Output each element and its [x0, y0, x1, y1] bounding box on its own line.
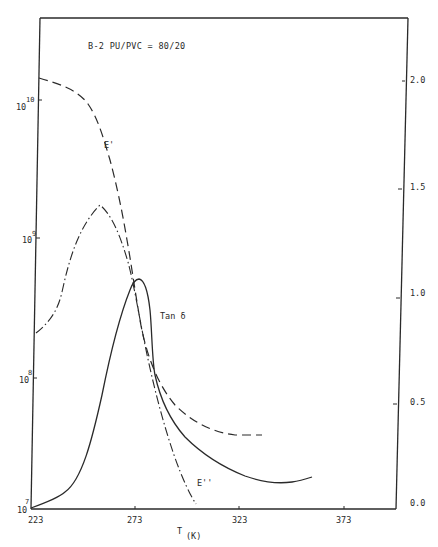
x-tick-223: 223 — [28, 515, 43, 525]
y-left-tick-1e7-base: 10 — [17, 505, 27, 515]
x-axis-tick-labels: 223 273 323 373 — [28, 515, 351, 525]
plot-frame — [31, 18, 408, 509]
dma-chart: 223 273 323 373 T (K) 10 10 10 9 10 8 10… — [0, 0, 438, 547]
y-right-tick-2.0: 2.0 — [410, 75, 425, 85]
y-left-tick-1e10-exp: 10 — [26, 96, 34, 104]
y-right-tick-1.5: 1.5 — [410, 182, 425, 192]
y-left-tick-1e10-base: 10 — [16, 102, 26, 112]
series-e-double-prime-line — [36, 205, 196, 504]
right-axis-tick-labels: 2.0 1.5 1.0 0.5 0.0 — [410, 75, 425, 508]
y-right-tick-0.0: 0.0 — [410, 498, 425, 508]
x-axis-unit: (K) — [186, 531, 201, 541]
x-tick-373: 373 — [336, 515, 351, 525]
chart-title: B-2 PU/PVC = 80/20 — [88, 41, 186, 51]
label-e-double-prime: E'' — [197, 478, 212, 488]
left-axis-tick-labels: 10 10 10 9 10 8 10 7 — [16, 96, 36, 515]
y-right-tick-1.0: 1.0 — [410, 288, 425, 298]
x-tick-323: 323 — [232, 515, 247, 525]
label-e-prime: E' — [104, 140, 114, 150]
y-left-tick-1e7-exp: 7 — [25, 498, 29, 506]
label-tan-delta: Tan δ — [160, 311, 186, 321]
y-left-tick-1e9-exp: 9 — [32, 230, 36, 238]
y-left-tick-1e9-base: 10 — [22, 235, 32, 245]
y-left-tick-1e8-exp: 8 — [28, 369, 32, 377]
y-right-tick-0.5: 0.5 — [410, 397, 425, 407]
right-axis-ticks — [393, 81, 405, 404]
x-tick-273: 273 — [127, 515, 142, 525]
x-axis-label: T — [177, 526, 182, 536]
series-e-prime-line — [39, 78, 262, 435]
